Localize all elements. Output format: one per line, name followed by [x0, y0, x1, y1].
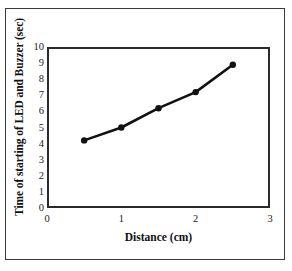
y-axis-tick-labels: 012345678910: [22, 40, 44, 216]
y-axis-tick-label: 2: [22, 170, 44, 182]
plot-series-layer: [47, 47, 270, 208]
y-axis-tick-label: 10: [22, 41, 44, 53]
y-axis-tick-label: 1: [22, 186, 44, 198]
x-axis-tick-label: 1: [111, 212, 131, 225]
x-axis-tick-label: 2: [186, 212, 206, 225]
x-axis-tick-label: 3: [260, 212, 280, 225]
x-axis-title: Distance (cm): [47, 231, 270, 243]
chart-figure: Time of starting of LED and Buzzer (sec)…: [0, 0, 292, 271]
x-axis-tick-labels: 0123: [0, 212, 292, 226]
y-axis-tick-label: 9: [22, 57, 44, 69]
data-point-marker: [155, 105, 161, 111]
y-axis-tick-label: 4: [22, 138, 44, 150]
data-point-marker: [81, 137, 87, 143]
y-axis-tick-label: 6: [22, 105, 44, 117]
y-axis-tick-label: 3: [22, 154, 44, 166]
x-axis-tick-label: 0: [37, 212, 57, 225]
data-point-marker: [230, 62, 236, 68]
data-point-marker: [192, 89, 198, 95]
series-line: [84, 65, 233, 141]
y-axis-tick-label: 8: [22, 73, 44, 85]
data-point-marker: [118, 124, 124, 130]
y-axis-tick-label: 5: [22, 122, 44, 134]
y-axis-tick-label: 7: [22, 89, 44, 101]
series-markers: [81, 62, 236, 144]
